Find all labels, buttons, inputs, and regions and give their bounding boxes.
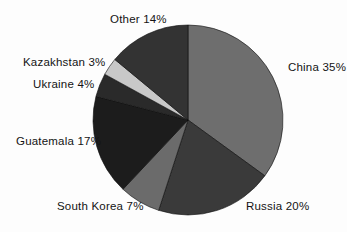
slice-label-south-korea: South Korea 7% bbox=[57, 201, 144, 213]
pie-chart: China 35% Russia 20% South Korea 7% Guat… bbox=[0, 0, 347, 232]
slice-label-china: China 35% bbox=[288, 62, 346, 74]
slice-label-guatemala: Guatemala 17% bbox=[16, 136, 101, 148]
pie-chart-page: China 35% Russia 20% South Korea 7% Guat… bbox=[0, 0, 347, 232]
slice-label-kazakhstan: Kazakhstan 3% bbox=[23, 57, 106, 69]
slice-label-other: Other 14% bbox=[110, 14, 167, 26]
pie-svg bbox=[0, 0, 347, 232]
slice-label-russia: Russia 20% bbox=[246, 201, 309, 213]
slice-label-ukraine: Ukraine 4% bbox=[33, 79, 94, 91]
